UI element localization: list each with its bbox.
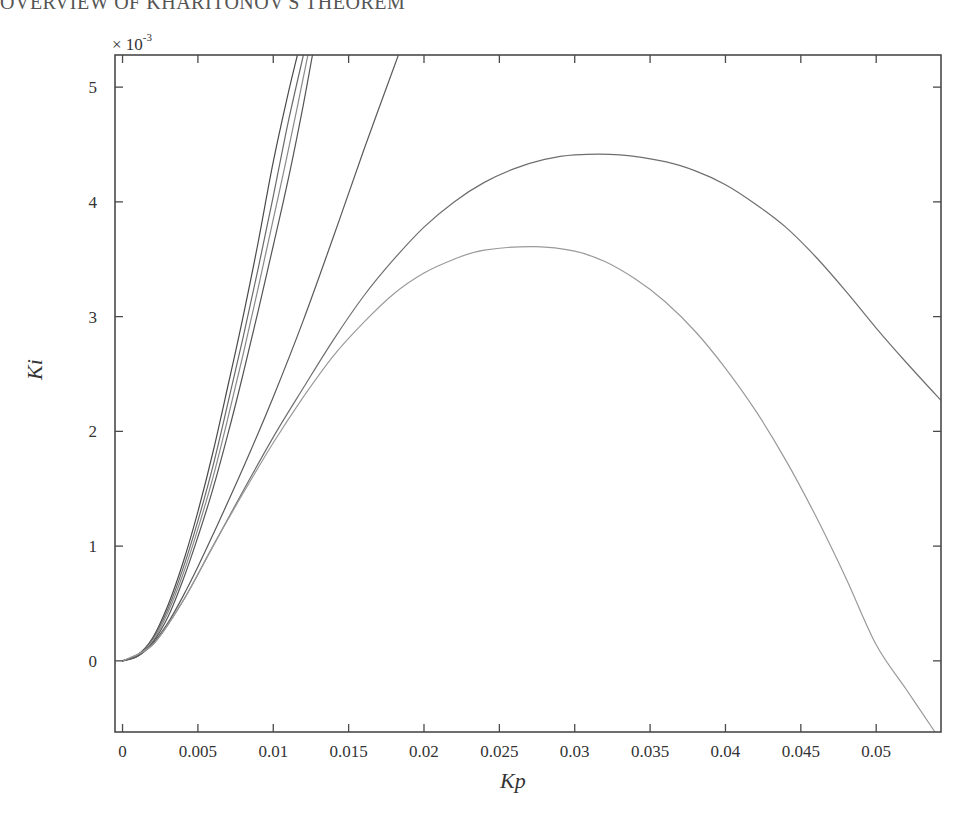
x-tick-label: 0.03 (560, 742, 590, 761)
y-tick-label: 2 (89, 422, 98, 441)
x-tick-label: 0.015 (330, 742, 368, 761)
y-tick-label: 1 (89, 537, 98, 556)
x-tick-label: 0 (118, 742, 127, 761)
y-tick-label: 5 (89, 78, 98, 97)
x-tick-label: 0.02 (409, 742, 439, 761)
curve-series-5 (123, 55, 399, 661)
x-tick-label: 0.05 (861, 742, 891, 761)
y-axis-ticks: 012345 (89, 78, 942, 671)
x-tick-label: 0.035 (631, 742, 669, 761)
y-tick-label: 3 (89, 308, 98, 327)
chart-plot-area: 00.0050.010.0150.020.0250.030.0350.040.0… (0, 0, 969, 815)
x-tick-label: 0.025 (480, 742, 518, 761)
x-tick-label: 0.04 (711, 742, 741, 761)
curve-series-4 (123, 55, 313, 661)
curve-series-1 (123, 55, 298, 661)
curve-group (123, 55, 942, 732)
x-tick-label: 0.045 (782, 742, 820, 761)
curve-series-3 (123, 55, 308, 661)
curve-series-6 (123, 154, 942, 661)
x-tick-label: 0.01 (258, 742, 288, 761)
y-tick-label: 4 (89, 193, 98, 212)
x-tick-label: 0.005 (179, 742, 217, 761)
y-tick-label: 0 (89, 652, 98, 671)
